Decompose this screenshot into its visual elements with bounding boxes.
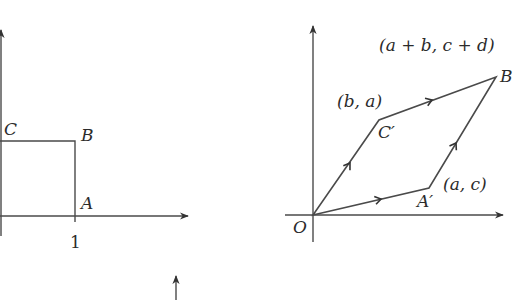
x-tick-label-1: 1 (70, 234, 81, 251)
coord-B-prime: (a + b, c + d) (379, 37, 495, 54)
label-A: A (81, 195, 93, 212)
unit-square (0, 141, 75, 216)
label-C-prime: C′ (378, 124, 395, 141)
label-B: B (81, 127, 94, 144)
coord-C-prime: (b, a) (337, 93, 382, 110)
coord-A-prime: (a, c) (443, 176, 487, 193)
left-figure (0, 30, 188, 300)
label-A-prime: A′ (417, 193, 433, 210)
label-O: O (293, 219, 307, 236)
label-C: C (4, 121, 17, 138)
label-B-prime: B (500, 68, 513, 85)
